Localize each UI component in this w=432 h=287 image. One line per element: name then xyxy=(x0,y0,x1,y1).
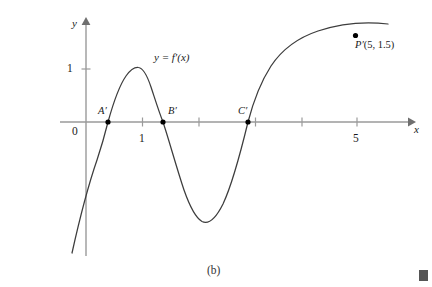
curve-equation-label: y = f′(x) xyxy=(154,52,189,63)
y-tick-label-1: 1 xyxy=(67,63,73,75)
point-a-prime-label: A′ xyxy=(98,106,107,117)
y-axis-arrowhead xyxy=(82,17,91,25)
x-axis-label: x xyxy=(414,124,419,135)
figure-panel-b: y x 0 1 1 5 y = f′(x) A′ B′ C′ P′(5, 1.5… xyxy=(0,0,432,287)
point-c-prime-dot xyxy=(245,119,250,124)
x-tick-label-1: 1 xyxy=(139,133,145,145)
origin-tick-label: 0 xyxy=(72,126,78,138)
point-c-prime-label: C′ xyxy=(238,106,247,117)
point-p-prime-label: P′(5, 1.5) xyxy=(355,40,394,51)
point-a-prime-dot xyxy=(105,119,110,124)
point-p-prime-name: P′ xyxy=(355,39,364,50)
point-b-prime-label: B′ xyxy=(168,106,177,117)
point-p-prime-dot xyxy=(353,33,358,38)
y-axis-label: y xyxy=(72,18,77,29)
panel-caption: (b) xyxy=(207,265,220,277)
point-p-prime-coords: (5, 1.5) xyxy=(364,39,395,50)
x-tick-label-5: 5 xyxy=(353,133,359,145)
point-b-prime-dot xyxy=(160,119,165,124)
scan-artifact-mark xyxy=(419,270,428,281)
derivative-curve xyxy=(72,23,388,253)
